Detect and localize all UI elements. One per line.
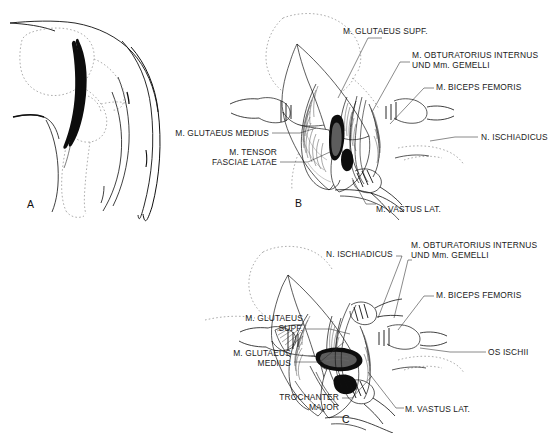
retractor-upper-c <box>350 299 403 325</box>
label-n-ischiadicus-b: N. ISCHIADICUS <box>481 132 548 142</box>
label-n-ischiadicus-c: N. ISCHIADICUS <box>326 249 393 259</box>
retractor-right-c <box>379 325 447 350</box>
panel-b-artwork <box>230 14 464 220</box>
label-m-glutaeus-supf-c-line1: M. GLUTAEUS <box>215 313 303 323</box>
label-m-glutaeus-medius-c-line2: MEDIUS <box>203 358 291 368</box>
figure-root: A B C M. GLUTAEUS SUPF. M. OBTURATORIUS … <box>0 0 555 433</box>
label-os-ischii-c: OS ISCHII <box>488 347 528 357</box>
retractor-left-b <box>230 98 291 123</box>
label-m-glutaeus-supf-b: M. GLUTAEUS SUPF. <box>343 26 428 36</box>
label-und-mm-gemelli-c: UND Mm. GEMELLI <box>411 250 489 260</box>
label-m-biceps-femoris-b: M. BICEPS FEMORIS <box>436 82 521 92</box>
label-m-tensor-b: M. TENSOR <box>153 147 277 157</box>
label-m-glutaeus-medius-b: M. GLUTAEUS MEDIUS <box>153 128 269 138</box>
retractor-right-b <box>386 99 454 124</box>
label-fasciae-latae-b: FASCIAE LATAE <box>153 157 277 167</box>
label-und-mm-gemelli-b: UND Mm. GEMELLI <box>412 60 490 70</box>
label-m-obturatorius-internus-b: M. OBTURATORIUS INTERNUS <box>412 50 538 60</box>
leader-lines-c <box>294 256 486 408</box>
label-trochanter-c-line2: MAJOR <box>261 402 339 412</box>
panel-letter-a: A <box>27 198 34 210</box>
label-m-vastus-lat-c: M. VASTUS LAT. <box>405 404 470 414</box>
label-m-vastus-lat-b: M. VASTUS LAT. <box>376 204 441 214</box>
label-trochanter-c-line1: TROCHANTER <box>261 392 339 402</box>
panel-letter-b: B <box>295 197 302 209</box>
label-m-biceps-femoris-c: M. BICEPS FEMORIS <box>436 290 521 300</box>
label-m-glutaeus-supf-c-line2: SUPF. <box>215 323 303 333</box>
label-m-glutaeus-medius-c-line1: M. GLUTAEUS <box>203 348 291 358</box>
panel-letter-c: C <box>342 413 350 425</box>
retractor-lower-c <box>346 380 395 424</box>
label-m-obturatorius-internus-c: M. OBTURATORIUS INTERNUS <box>411 240 537 250</box>
panel-a-artwork <box>10 21 160 221</box>
